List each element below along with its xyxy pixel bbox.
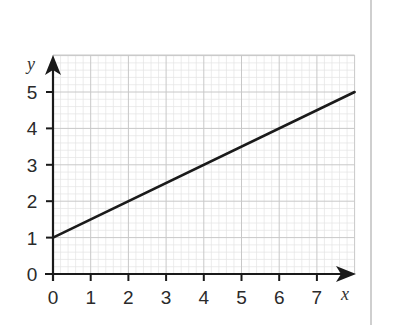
y-tick-label: 5 [27, 82, 38, 103]
x-tick-label: 0 [48, 287, 59, 308]
y-tick-label: 3 [27, 155, 38, 176]
y-tick-label: 1 [27, 228, 38, 249]
x-axis-label: x [340, 284, 349, 304]
x-tick-label: 3 [161, 287, 172, 308]
x-tick-label: 6 [274, 287, 285, 308]
x-axis-ticks: 01234567 [48, 274, 322, 308]
y-tick-label: 4 [27, 118, 38, 139]
y-tick-label: 2 [27, 191, 38, 212]
x-tick-label: 7 [312, 287, 323, 308]
y-tick-label: 0 [27, 264, 38, 285]
x-tick-label: 5 [236, 287, 247, 308]
x-tick-label: 4 [199, 287, 210, 308]
page-divider [370, 0, 372, 325]
y-axis-label: y [25, 54, 35, 74]
x-tick-label: 1 [85, 287, 96, 308]
y-axis-ticks: 012345 [27, 82, 53, 285]
line-chart: 01234567 012345 x y [0, 0, 393, 325]
x-tick-label: 2 [123, 287, 134, 308]
